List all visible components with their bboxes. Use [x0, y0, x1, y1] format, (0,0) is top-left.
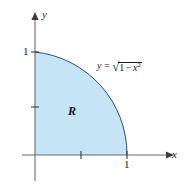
square-root-icon: √ 1−x2	[112, 61, 141, 73]
region-label-r: R	[68, 105, 76, 117]
y-axis-arrow-icon	[31, 12, 38, 20]
y-tick-label-1: 1	[23, 46, 29, 57]
curve-equation-label: y = √ 1−x2	[97, 61, 142, 73]
y-axis-label: y	[42, 9, 47, 20]
radicand: 1−x2	[118, 62, 141, 73]
figure-quarter-circle-region: y x 1 1 R y = √ 1−x2	[0, 0, 185, 187]
equation-operator: =	[101, 61, 112, 71]
plot-canvas	[0, 0, 185, 187]
radicand-minus: −	[124, 62, 133, 73]
x-axis-label: x	[172, 149, 177, 160]
radicand-exponent: 2	[137, 61, 140, 68]
x-tick-label-1: 1	[124, 159, 130, 170]
equation-expression: y = √ 1−x2	[97, 61, 142, 73]
